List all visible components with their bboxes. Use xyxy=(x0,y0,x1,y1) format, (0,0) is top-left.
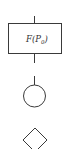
connector-circle xyxy=(24,76,46,107)
flowchart-diagram: F(P0) xyxy=(0,0,69,149)
connector-circle-shape xyxy=(24,85,46,107)
decision-diamond xyxy=(23,128,47,149)
process-label: F(P0) xyxy=(25,34,48,45)
process-box: F(P0) xyxy=(9,16,62,63)
decision-diamond-shape xyxy=(23,128,47,149)
